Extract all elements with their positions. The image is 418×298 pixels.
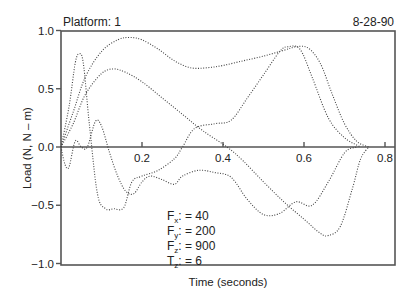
series-line (61, 46, 361, 210)
series-line (61, 38, 369, 148)
series-lines (61, 38, 369, 237)
date-label: 8-28-90 (353, 15, 395, 29)
platform-label: Platform: 1 (63, 15, 121, 29)
scale-annotation-line: Fz: = 900 (167, 239, 216, 255)
scale-annotation: Fx: = 40Fy: = 200Fz: = 900Tz: = 6 (167, 209, 216, 270)
y-tick-label: −0.5 (31, 199, 54, 211)
y-axis-label: Load (N, N – m) (21, 107, 33, 189)
series-line (61, 120, 357, 216)
x-tick-label: 0.4 (215, 152, 232, 164)
y-axis-ticks: 1.00.50.0−0.5−1.0 (31, 25, 61, 270)
x-tick-label: 0.6 (296, 152, 312, 164)
x-axis-label: Time (seconds) (189, 276, 268, 288)
plot-frame (61, 31, 395, 265)
y-tick-label: 0.5 (38, 83, 54, 95)
y-tick-label: 0.0 (38, 141, 54, 153)
scale-annotation-line: Fx: = 40 (167, 209, 209, 225)
y-tick-label: 1.0 (38, 25, 54, 37)
x-tick-label: 0.2 (134, 152, 150, 164)
scale-annotation-line: Tz: = 6 (167, 254, 202, 270)
scale-annotation-line: Fy: = 200 (167, 224, 216, 240)
x-tick-label: 0.8 (377, 152, 393, 164)
load-chart: Platform: 1 8-28-90 1.00.50.0−0.5−1.0 0.… (0, 0, 418, 298)
y-tick-label: −1.0 (31, 258, 54, 270)
